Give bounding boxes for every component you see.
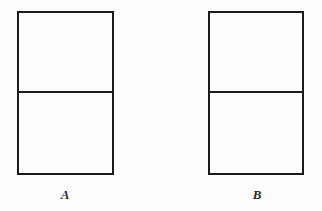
figure-background — [0, 0, 322, 211]
panel-label-b: B — [237, 188, 277, 201]
figure-container: A B — [0, 0, 322, 211]
figure-drawing — [0, 0, 322, 211]
panel-label-a: A — [45, 188, 85, 201]
